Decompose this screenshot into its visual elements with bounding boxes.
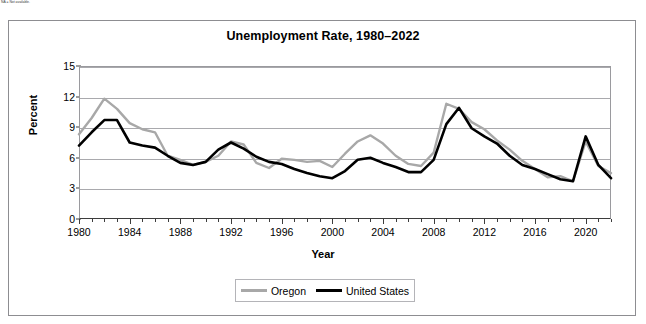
x-axis-tick-major <box>332 219 333 224</box>
y-axis-ticks: 03691215 <box>45 66 75 219</box>
legend-swatch-icon <box>316 289 342 292</box>
x-axis-tick-minor <box>294 219 295 222</box>
footnote-text: NA = Not available. <box>1 0 30 5</box>
x-axis-tick-label: 2012 <box>464 226 504 238</box>
y-axis-tick-label: 12 <box>49 91 75 103</box>
x-axis-tick-minor <box>472 219 473 222</box>
x-axis-tick-minor <box>155 219 156 222</box>
x-axis-tick-minor <box>307 219 308 222</box>
x-axis-tick-label: 1980 <box>59 226 99 238</box>
x-axis-tick-minor <box>358 219 359 222</box>
x-axis-tick-minor <box>446 219 447 222</box>
x-axis-tick-minor <box>510 219 511 222</box>
x-axis-tick-label: 1992 <box>211 226 251 238</box>
x-axis-tick-major <box>180 219 181 224</box>
x-axis-tick-minor <box>560 219 561 222</box>
x-axis-tick-minor <box>256 219 257 222</box>
y-axis-tick-label: 3 <box>49 182 75 194</box>
series-lines <box>79 66 611 219</box>
x-axis-tick-minor <box>269 219 270 222</box>
y-axis-tick-label: 0 <box>49 213 75 225</box>
x-axis-tick-minor <box>320 219 321 222</box>
x-axis-tick-major <box>434 219 435 224</box>
x-axis-tick-minor <box>459 219 460 222</box>
x-axis-tick-minor <box>396 219 397 222</box>
x-axis-tick-major <box>484 219 485 224</box>
x-axis-tick-minor <box>370 219 371 222</box>
legend-label: United States <box>346 285 409 297</box>
x-axis-tick-minor <box>193 219 194 222</box>
x-axis-tick-minor <box>168 219 169 222</box>
y-axis-title: Percent <box>27 85 39 145</box>
x-axis-tick-minor <box>497 219 498 222</box>
x-axis-tick-minor <box>104 219 105 222</box>
x-axis-tick-major <box>535 219 536 224</box>
x-axis-tick-minor <box>421 219 422 222</box>
x-axis-tick-minor <box>92 219 93 222</box>
x-axis-tick-label: 2000 <box>312 226 352 238</box>
x-axis-tick-minor <box>142 219 143 222</box>
x-axis-tick-minor <box>522 219 523 222</box>
x-axis-tick-minor <box>244 219 245 222</box>
legend-entry[interactable]: Oregon <box>241 285 306 297</box>
x-axis-tick-major <box>282 219 283 224</box>
x-axis-title: Year <box>9 248 637 260</box>
x-axis-tick-label: 2008 <box>414 226 454 238</box>
x-axis-tick-minor <box>345 219 346 222</box>
x-axis-tick-minor <box>548 219 549 222</box>
legend-label: Oregon <box>271 285 306 297</box>
x-axis-tick-major <box>231 219 232 224</box>
x-axis-tick-label: 1996 <box>262 226 302 238</box>
x-axis-ticks: 1980198419881992199620002004200820122016… <box>79 219 611 245</box>
legend-entry[interactable]: United States <box>316 285 409 297</box>
y-axis-tick-label: 15 <box>49 60 75 72</box>
plot-area-wrapper <box>79 66 611 219</box>
y-axis-tick-label: 9 <box>49 121 75 133</box>
x-axis-tick-label: 1984 <box>110 226 150 238</box>
x-axis-tick-label: 2020 <box>566 226 606 238</box>
series-line-united-states <box>79 108 611 181</box>
x-axis-tick-minor <box>218 219 219 222</box>
x-axis-tick-minor <box>117 219 118 222</box>
x-axis-tick-major <box>383 219 384 224</box>
x-axis-tick-major <box>79 219 80 224</box>
x-axis-tick-label: 2016 <box>515 226 555 238</box>
chart-container: Unemployment Rate, 1980–2022 Percent 036… <box>8 20 636 316</box>
x-axis-tick-minor <box>206 219 207 222</box>
x-axis-tick-major <box>130 219 131 224</box>
y-axis-tick-label: 6 <box>49 152 75 164</box>
x-axis-tick-minor <box>573 219 574 222</box>
x-axis-tick-minor <box>598 219 599 222</box>
chart-legend: OregonUnited States <box>235 279 415 302</box>
x-axis-tick-minor <box>408 219 409 222</box>
x-axis-tick-label: 1988 <box>160 226 200 238</box>
x-axis-tick-label: 2004 <box>363 226 403 238</box>
chart-title: Unemployment Rate, 1980–2022 <box>9 29 637 43</box>
legend-swatch-icon <box>241 289 267 292</box>
x-axis-tick-major <box>586 219 587 224</box>
x-axis-tick-minor <box>611 219 612 222</box>
